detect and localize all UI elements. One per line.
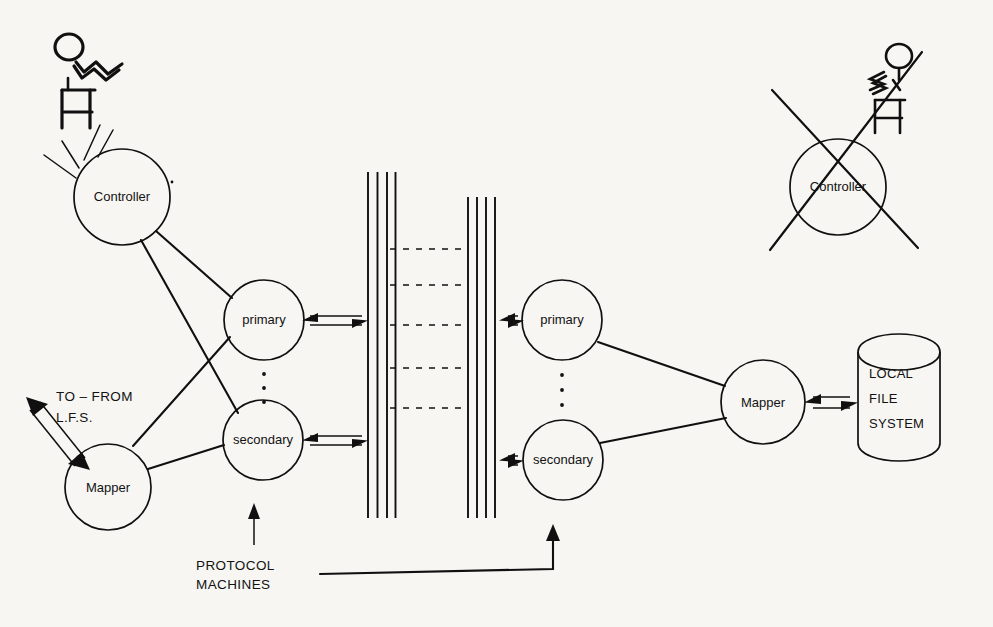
node-controller-crossed-out[interactable]: Controller (790, 139, 886, 235)
cross-out-mark (770, 52, 922, 250)
network-bundle-left (368, 172, 396, 518)
node-secondary-right[interactable]: secondary (523, 420, 603, 500)
node-label-primary-left: primary (242, 312, 286, 327)
diagram-svg: Controller Mapper primary secondary (0, 0, 993, 627)
node-label-primary-right: primary (540, 312, 584, 327)
arrow-secondary-left-network (302, 433, 368, 448)
local-file-system-line2: FILE (869, 391, 898, 406)
terminal-controller-rays (44, 125, 113, 178)
label-to-from-lfs-line2: L.F.S. (56, 410, 93, 425)
user-stick-figure-right (870, 44, 912, 133)
node-secondary-left[interactable]: secondary (223, 400, 303, 480)
local-file-system-line1: LOCAL (869, 366, 913, 381)
node-label-secondary-right: secondary (533, 452, 593, 467)
arrow-network-primary-right (499, 313, 524, 328)
user-stick-figure-left (55, 34, 122, 128)
node-label-secondary-left: secondary (233, 432, 293, 447)
network-dashed-connectors (390, 249, 468, 408)
label-protocol-machines-line2: MACHINES (196, 577, 270, 592)
node-primary-right[interactable]: primary (522, 280, 602, 360)
arrow-to-from-lfs (26, 397, 90, 470)
label-protocol-machines-line1: PROTOCOL (196, 558, 275, 573)
ellipsis-left-protocol-machines (262, 372, 266, 404)
links-right-site (598, 342, 726, 443)
arrow-mapper-local-file-system (804, 394, 858, 411)
local-file-system-line3: SYSTEM (869, 416, 924, 431)
arrow-primary-left-network (302, 313, 368, 328)
node-label-mapper-left: Mapper (86, 480, 131, 495)
node-label-mapper-right: Mapper (741, 395, 786, 410)
label-to-from-lfs-line1: TO – FROM (56, 389, 133, 404)
diagram-canvas: Controller Mapper primary secondary (0, 0, 993, 627)
ellipsis-right-protocol-machines (560, 373, 564, 407)
node-primary-left[interactable]: primary (224, 280, 304, 360)
network-bundle-right (468, 197, 495, 518)
arrow-network-secondary-right (499, 453, 524, 468)
speck-mark (171, 181, 174, 184)
links-left-site (133, 231, 238, 469)
node-mapper-right[interactable]: Mapper (721, 360, 805, 444)
protocol-machines-pointer-left (248, 503, 260, 545)
node-label-controller-left: Controller (94, 189, 151, 204)
protocol-machines-pointer-right (320, 524, 560, 574)
